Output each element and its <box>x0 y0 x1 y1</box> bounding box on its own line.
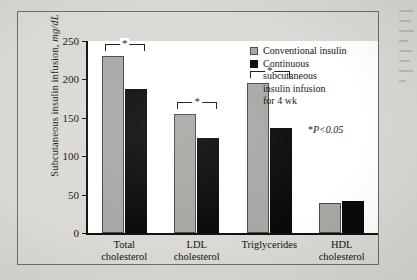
bar <box>102 56 124 233</box>
bleed-line <box>399 10 413 12</box>
scanned-page: Subcutaneous insulin infusion, mg/dL 050… <box>0 0 417 280</box>
bar-group: *LDLcholesterol <box>174 41 219 233</box>
y-axis-tick-label: 150 <box>63 112 80 124</box>
y-axis-tick-label: 100 <box>63 150 80 162</box>
bar <box>125 89 147 233</box>
x-axis-label-line: cholesterol <box>151 251 243 263</box>
bleed-line <box>399 20 411 22</box>
y-axis-tick-label: 50 <box>68 189 79 201</box>
p-note-text: P<0.05 <box>313 124 343 135</box>
bleed-line <box>399 30 414 32</box>
y-axis-title-main: Subcutaneous insulin infusion, <box>49 44 60 176</box>
bar <box>174 114 196 233</box>
adjacent-column-text-bleed <box>399 10 417 150</box>
legend-item-label: Continuoussubcutaneousinsulin infusionfo… <box>263 58 380 107</box>
y-axis-tick-label: 200 <box>63 73 80 85</box>
y-axis-title: Subcutaneous insulin infusion, mg/dL <box>49 0 60 194</box>
y-axis-tick-label: 250 <box>63 35 80 47</box>
significance-marker: * <box>193 96 203 107</box>
legend-swatch-black <box>250 60 258 68</box>
bleed-line <box>399 50 412 52</box>
y-axis-tick <box>82 156 88 157</box>
significance-bracket: * <box>177 102 217 109</box>
bar-group: *Totalcholesterol <box>102 41 147 233</box>
y-axis-tick <box>82 195 88 196</box>
legend-item: Continuoussubcutaneousinsulin infusionfo… <box>250 58 380 107</box>
bleed-line <box>399 80 406 82</box>
significance-marker: * <box>120 38 130 49</box>
legend-item: Conventional insulin <box>250 45 380 57</box>
bar <box>270 128 292 233</box>
bleed-line <box>399 70 413 72</box>
figure-frame: Subcutaneous insulin infusion, mg/dL 050… <box>17 11 379 265</box>
legend-label-line: for 4 wk <box>263 95 380 107</box>
p-value-note: *P<0.05 <box>308 124 343 135</box>
legend-label-line: subcutaneous <box>263 70 380 82</box>
x-axis-label-line: HDL <box>296 239 388 251</box>
bar <box>197 138 219 233</box>
x-axis-label-line: cholesterol <box>296 251 388 263</box>
y-axis-tick <box>82 41 88 42</box>
y-axis-tick <box>82 118 88 119</box>
y-axis-tick <box>82 79 88 80</box>
y-axis-tick <box>82 233 88 234</box>
bar <box>342 201 364 233</box>
bleed-line <box>399 40 408 42</box>
legend-label-line: Continuous <box>263 58 380 70</box>
y-axis-title-unit: mg/dL <box>49 14 60 41</box>
significance-bracket: * <box>105 44 145 51</box>
x-axis-category-label: HDLcholesterol <box>296 239 388 263</box>
y-axis-tick-label: 0 <box>74 227 80 239</box>
legend-label-line: insulin infusion <box>263 83 380 95</box>
legend-swatch-gray <box>250 47 258 55</box>
chart-legend: Conventional insulinContinuoussubcutaneo… <box>250 45 380 108</box>
bleed-line <box>399 60 410 62</box>
legend-item-label: Conventional insulin <box>263 45 380 57</box>
bar <box>319 203 341 233</box>
legend-label-line: Conventional insulin <box>263 45 380 57</box>
